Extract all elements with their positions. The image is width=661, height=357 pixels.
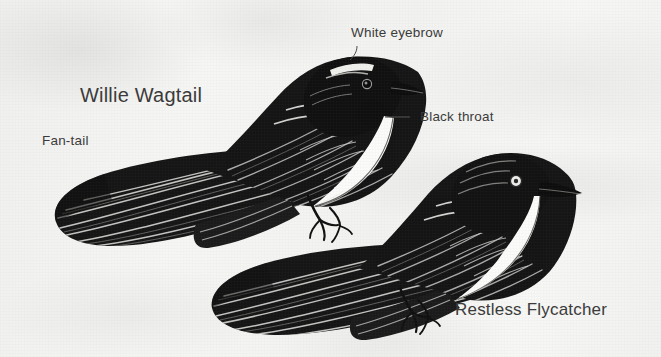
label-willie-wagtail: Willie Wagtail [80, 85, 202, 105]
bird-illustration-figure: White eyebrow Willie Wagtail Black throa… [0, 0, 661, 357]
label-white-eyebrow: White eyebrow [351, 26, 443, 40]
label-restless-flycatcher: Restless Flycatcher [455, 301, 607, 318]
label-black-throat: Black throat [420, 110, 494, 124]
label-fan-tail: Fan-tail [42, 134, 89, 148]
